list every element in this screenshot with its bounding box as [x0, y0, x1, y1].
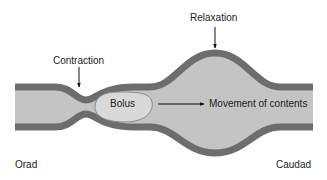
bolus-label: Bolus — [110, 99, 135, 109]
movement-label: Movement of contents — [209, 99, 307, 109]
relaxation-label: Relaxation — [190, 13, 237, 23]
caudad-label: Caudad — [276, 160, 311, 170]
peristalsis-diagram — [0, 0, 327, 180]
orad-label: Orad — [15, 160, 37, 170]
contraction-label: Contraction — [53, 56, 104, 66]
